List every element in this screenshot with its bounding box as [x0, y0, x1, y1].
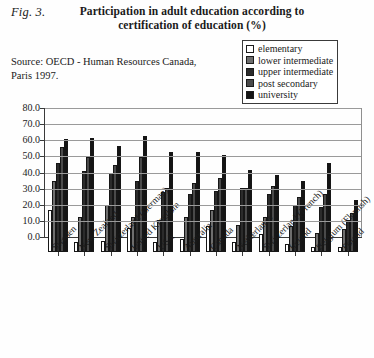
- y-axis-tick-label: 20.0: [23, 200, 41, 210]
- gridline: [45, 156, 361, 157]
- legend-label: lower intermediate: [258, 55, 333, 67]
- legend-item: elementary: [246, 43, 333, 55]
- gridline: [45, 205, 361, 206]
- legend-swatch-icon: [246, 45, 254, 53]
- gridline: [45, 108, 361, 109]
- y-axis-tick-label: 30.0: [23, 184, 41, 194]
- y-axis: 0.010.020.030.040.050.060.070.080.0: [0, 108, 44, 238]
- chart-title-line-1: Participation in adult education accordi…: [52, 4, 332, 18]
- chart-title-line-2: certification of education (%): [52, 18, 332, 32]
- gridline: [45, 140, 361, 141]
- y-axis-tick-label: 80.0: [23, 103, 41, 113]
- legend-label: upper intermediate: [258, 66, 333, 78]
- chart-legend: elementarylower intermediateupper interm…: [242, 40, 338, 104]
- source-line-2: Paris 1997.: [11, 69, 236, 83]
- y-axis-tick-label: 10.0: [23, 216, 41, 226]
- y-axis-tick-label: 70.0: [23, 119, 41, 129]
- legend-item: lower intermediate: [246, 55, 333, 67]
- y-axis-tick-label: 60.0: [23, 135, 41, 145]
- gridline: [45, 189, 361, 190]
- legend-label: elementary: [258, 43, 302, 55]
- legend-item: upper intermediate: [246, 66, 333, 78]
- legend-swatch-icon: [246, 91, 254, 99]
- figure-label: Fig. 3.: [11, 5, 45, 20]
- y-axis-tick-label: 50.0: [23, 151, 41, 161]
- x-axis-labels: SwedenNew ZealandSwitzerland (German)Uni…: [0, 239, 374, 349]
- legend-label: post secondary: [258, 78, 318, 90]
- legend-swatch-icon: [246, 79, 254, 87]
- legend-swatch-icon: [246, 56, 254, 64]
- legend-label: university: [258, 89, 298, 101]
- legend-item: post secondary: [246, 78, 333, 90]
- y-axis-tick-label: 40.0: [23, 168, 41, 178]
- gridline: [45, 124, 361, 125]
- gridline: [45, 221, 361, 222]
- gridline: [45, 173, 361, 174]
- legend-swatch-icon: [246, 68, 254, 76]
- legend-item: university: [246, 89, 333, 101]
- source-note: Source: OECD - Human Resources Canada, P…: [11, 55, 236, 83]
- chart-title: Participation in adult education accordi…: [52, 4, 332, 32]
- source-line-1: Source: OECD - Human Resources Canada,: [11, 55, 236, 69]
- plot-area: 0.010.020.030.040.050.060.070.080.0 Swed…: [0, 108, 374, 253]
